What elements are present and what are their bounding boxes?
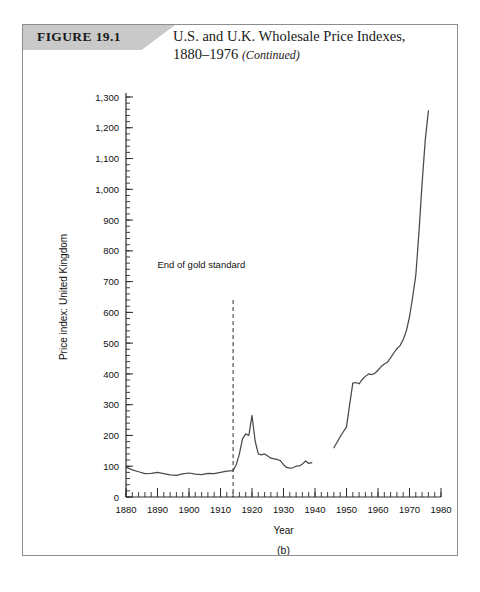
figure-title-line-2: 1880–1976 — [173, 46, 238, 62]
figure-header: FIGURE 19.1 U.S. and U.K. Wholesale Pric… — [23, 25, 457, 77]
x-axis-tick-label: 1930 — [273, 504, 294, 515]
y-axis-tick-label: 1,000 — [95, 184, 119, 195]
y-axis-tick-label: 600 — [103, 307, 119, 318]
y-axis-tick-label: 700 — [103, 276, 119, 287]
data-line-segment — [334, 111, 429, 448]
x-axis-tick-label: 1910 — [210, 504, 231, 515]
y-axis-tick-label: 200 — [103, 430, 119, 441]
y-axis-tick-label: 1,100 — [95, 153, 119, 164]
data-line-segment — [126, 415, 312, 475]
y-axis-tick-label: 1,300 — [95, 92, 119, 103]
x-axis-title: Year — [273, 525, 294, 536]
x-axis-tick-label: 1880 — [115, 504, 136, 515]
y-axis: 01002003004005006007008009001,0001,1001,… — [95, 92, 133, 503]
x-axis-tick-label: 1970 — [399, 504, 420, 515]
x-axis-tick-label: 1980 — [430, 504, 451, 515]
annotation-group: End of gold standard — [158, 259, 246, 497]
end-of-gold-standard-label: End of gold standard — [158, 259, 246, 270]
x-axis-tick-label: 1940 — [304, 504, 325, 515]
x-axis-tick-label: 1890 — [147, 504, 168, 515]
y-axis-tick-label: 1,200 — [95, 122, 119, 133]
y-axis-tick-label: 100 — [103, 461, 119, 472]
data-series-group — [126, 111, 428, 476]
x-axis-tick-label: 1900 — [178, 504, 199, 515]
x-axis-tick-label: 1950 — [336, 504, 357, 515]
y-axis-title: Price index: United Kingdom — [58, 234, 69, 360]
figure-title-continued: (Continued) — [242, 48, 300, 62]
figure-title: U.S. and U.K. Wholesale Price Indexes, 1… — [173, 27, 451, 64]
x-axis: 1880189019001910192019301940195019601970… — [115, 488, 451, 515]
y-axis-tick-label: 0 — [114, 492, 119, 503]
wholesale-price-index-line-chart: 01002003004005006007008009001,0001,1001,… — [23, 77, 457, 555]
figure-title-line-1: U.S. and U.K. Wholesale Price Indexes, — [173, 28, 405, 44]
y-axis-tick-label: 900 — [103, 215, 119, 226]
figure-number-label: FIGURE 19.1 — [37, 29, 121, 45]
y-axis-tick-label: 500 — [103, 338, 119, 349]
chart-plot-area: 01002003004005006007008009001,0001,1001,… — [23, 77, 457, 555]
y-axis-tick-label: 800 — [103, 245, 119, 256]
x-axis-tick-label: 1920 — [241, 504, 262, 515]
y-axis-tick-label: 400 — [103, 369, 119, 380]
y-axis-tick-label: 300 — [103, 399, 119, 410]
x-axis-tick-label: 1960 — [367, 504, 388, 515]
figure-container: FIGURE 19.1 U.S. and U.K. Wholesale Pric… — [22, 24, 458, 556]
panel-label: (b) — [277, 544, 290, 555]
